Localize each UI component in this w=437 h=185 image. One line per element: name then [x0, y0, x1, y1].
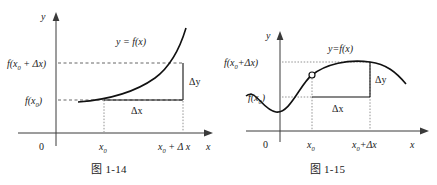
- figure-1-14-caption: 图 1-14: [0, 160, 218, 176]
- open-point-marker: [309, 72, 315, 78]
- y-axis-label: y: [265, 30, 271, 41]
- svg-text:f(x0): f(x0): [25, 95, 43, 108]
- svg-text:f(x0+Δx): f(x0+Δx): [224, 57, 259, 70]
- y-axis-arrow: [277, 31, 284, 40]
- curve-label: y=f(x): [327, 43, 354, 55]
- figure-1-15-caption: 图 1-15: [218, 160, 437, 176]
- function-curve: [246, 61, 406, 112]
- y-axis-arrow: [53, 12, 60, 21]
- figure-1-14-plot: y = f(x) f(x0 + Δx) f(x0) x0: [0, 0, 218, 160]
- x-tick-label-x0-dx: x0+Δx: [351, 139, 377, 152]
- svg-text:x0+Δx: x0+Δx: [351, 139, 377, 152]
- figure-1-15-plot: y=f(x) f(x0+Δx) f(x0) x0: [218, 0, 437, 160]
- origin-label: 0: [39, 141, 44, 152]
- x-tick-label-x0-dx: x0 + Δ x: [157, 141, 191, 154]
- delta-y-label: Δy: [375, 74, 386, 85]
- x-tick-label-x0: x0: [306, 139, 315, 152]
- svg-text:f(x0): f(x0): [248, 92, 266, 105]
- y-tick-label-upper: f(x0+Δx): [224, 57, 259, 70]
- y-tick-label-lower: f(x0): [25, 95, 43, 108]
- x-axis-label: x: [409, 139, 415, 150]
- y-tick-label-upper: f(x0 + Δx): [7, 58, 47, 71]
- curve-label: y = f(x): [115, 36, 147, 48]
- svg-text:x0 + Δ x: x0 + Δ x: [157, 141, 191, 154]
- origin-label: 0: [263, 139, 268, 150]
- figure-1-14: y = f(x) f(x0 + Δx) f(x0) x0: [0, 0, 218, 185]
- delta-x-label: Δx: [332, 103, 343, 114]
- y-axis-label: y: [40, 11, 46, 22]
- svg-text:x0: x0: [98, 141, 107, 154]
- x-axis-arrow: [204, 130, 213, 137]
- y-tick-label-lower: f(x0): [248, 92, 266, 105]
- x-axis-label: x: [205, 141, 211, 152]
- svg-text:x0: x0: [306, 139, 315, 152]
- figures-container: y = f(x) f(x0 + Δx) f(x0) x0: [0, 0, 437, 185]
- delta-x-label: Δx: [131, 105, 142, 116]
- figure-1-15: y=f(x) f(x0+Δx) f(x0) x0: [218, 0, 437, 185]
- svg-text:f(x0 + Δx): f(x0 + Δx): [7, 58, 47, 71]
- x-tick-label-x0: x0: [98, 141, 107, 154]
- x-axis-arrow: [420, 128, 429, 135]
- delta-y-label: Δy: [189, 76, 200, 87]
